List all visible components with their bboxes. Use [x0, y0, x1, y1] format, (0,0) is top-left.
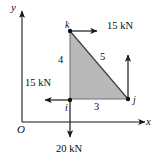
- force-label-i-horizontal: 15 kN: [25, 78, 51, 89]
- node-label-k: k: [65, 20, 69, 30]
- figure-canvas: y x O k i j 4 5 3 15 kN 15 kN 20 kN: [0, 0, 156, 160]
- origin-label: O: [17, 124, 25, 135]
- node-dot-i: [68, 98, 72, 102]
- force-label-i-vertical: 20 kN: [56, 144, 82, 155]
- x-axis-label: x: [146, 116, 151, 127]
- side-length-ik: 4: [58, 55, 63, 66]
- side-length-ij: 3: [94, 102, 99, 113]
- node-label-i: i: [65, 103, 68, 113]
- side-length-kj: 5: [100, 52, 105, 63]
- force-label-k: 15 kN: [107, 21, 133, 32]
- node-label-j: j: [133, 95, 136, 105]
- node-dot-j: [126, 97, 130, 101]
- y-axis-label: y: [11, 2, 16, 13]
